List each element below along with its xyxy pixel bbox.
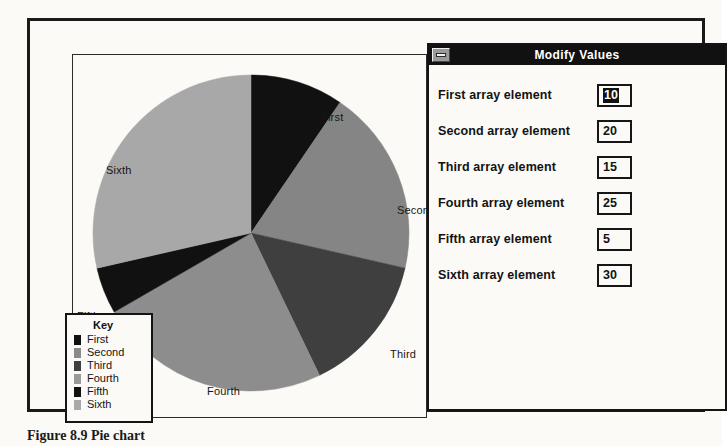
field-label-2: Second array element [438, 124, 570, 138]
figure-outer-frame: FirstSecondThirdFourthFifthSixth Key Fir… [27, 18, 705, 412]
key-label-second: Second [87, 346, 124, 359]
key-row: Sixth [67, 398, 151, 411]
field-input-2[interactable]: 20 [597, 120, 632, 143]
key-swatch-third [74, 361, 81, 371]
key-swatch-fifth [74, 387, 81, 397]
key-label-sixth: Sixth [87, 398, 111, 411]
chart-key-legend: Key FirstSecondThirdFourthFifthSixth [65, 313, 153, 423]
key-swatch-second [74, 348, 81, 358]
key-row-list: FirstSecondThirdFourthFifthSixth [67, 333, 151, 411]
form-row-4: Fourth array element25 [429, 185, 725, 221]
dialog-body: First array element10Second array elemen… [429, 65, 725, 409]
key-row: Fourth [67, 372, 151, 385]
form-row-2: Second array element20 [429, 113, 725, 149]
key-swatch-sixth [74, 400, 81, 410]
form-row-1: First array element10 [429, 77, 725, 113]
field-label-3: Third array element [438, 160, 556, 174]
key-row: Second [67, 346, 151, 359]
dialog-title: Modify Values [534, 48, 619, 62]
system-menu-icon[interactable] [432, 48, 450, 62]
field-input-4[interactable]: 25 [597, 192, 632, 215]
field-value-2: 20 [603, 124, 617, 138]
field-input-3[interactable]: 15 [597, 156, 632, 179]
pie-label-third: Third [390, 348, 416, 360]
field-input-1[interactable]: 10 [597, 84, 632, 107]
key-title: Key [93, 319, 151, 332]
key-label-fifth: Fifth [87, 385, 108, 398]
field-value-6: 30 [603, 268, 617, 282]
field-value-4: 25 [603, 196, 617, 210]
field-label-4: Fourth array element [438, 196, 564, 210]
figure-caption: Figure 8.9 Pie chart [27, 428, 145, 446]
form-row-5: Fifth array element5 [429, 221, 725, 257]
field-value-5: 5 [603, 232, 610, 246]
field-value-3: 15 [603, 160, 617, 174]
key-row: Third [67, 359, 151, 372]
dialog-titlebar: Modify Values [429, 45, 725, 65]
system-menu-bar-glyph [436, 53, 446, 57]
key-label-fourth: Fourth [87, 372, 119, 385]
key-row: Fifth [67, 385, 151, 398]
field-input-5[interactable]: 5 [597, 228, 632, 251]
pie-label-fourth: Fourth [207, 385, 240, 397]
key-label-third: Third [87, 359, 112, 372]
key-row: First [67, 333, 151, 346]
pie-label-sixth: Sixth [106, 164, 131, 176]
pie-label-first: First [321, 111, 343, 123]
field-label-1: First array element [438, 88, 552, 102]
field-label-6: Sixth array element [438, 268, 555, 282]
key-swatch-first [74, 335, 81, 345]
form-row-3: Third array element15 [429, 149, 725, 185]
key-label-first: First [87, 333, 108, 346]
field-label-5: Fifth array element [438, 232, 552, 246]
field-value-1: 10 [603, 88, 619, 103]
key-swatch-fourth [74, 374, 81, 384]
form-row-6: Sixth array element30 [429, 257, 725, 293]
field-input-6[interactable]: 30 [597, 264, 632, 287]
modify-values-dialog: Modify Values First array element10Secon… [427, 43, 727, 411]
